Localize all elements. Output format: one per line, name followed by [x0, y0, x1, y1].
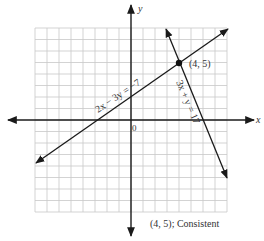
- line1-label: 2x − 3y = −7: [93, 77, 142, 115]
- y-axis-label: y: [137, 3, 143, 14]
- coordinate-plane: x y 0 (4, 5) 2x − 3y = −7 3x + y = 17: [0, 0, 264, 241]
- x-axis-label: x: [255, 114, 261, 125]
- caption: (4, 5); Consistent: [150, 218, 219, 229]
- intersection-point: [176, 60, 182, 66]
- point-label: (4, 5): [189, 58, 211, 70]
- origin-label: 0: [132, 123, 137, 133]
